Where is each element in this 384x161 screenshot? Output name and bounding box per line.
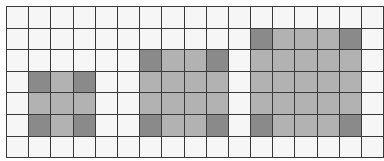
square-5x5-cell — [295, 93, 317, 115]
square-5x5-cell — [340, 93, 362, 115]
grid-cell — [96, 50, 118, 72]
grid-cell — [162, 29, 184, 51]
grid-cell — [273, 137, 295, 159]
grid-cell — [362, 7, 384, 29]
grid-cell — [362, 72, 384, 94]
square-3x3-corner-cell — [29, 72, 51, 94]
square-5x5-cell — [295, 29, 317, 51]
grid-cell — [118, 137, 140, 159]
square-5x5-cell — [318, 115, 340, 137]
grid-cell — [51, 29, 73, 51]
grid-cell — [96, 115, 118, 137]
grid-cell — [185, 7, 207, 29]
grid-cell — [185, 29, 207, 51]
square-5x5-corner-cell — [340, 115, 362, 137]
square-4x4-corner-cell — [207, 50, 229, 72]
square-5x5-corner-cell — [251, 29, 273, 51]
grid-cell — [229, 115, 251, 137]
square-4x4-cell — [185, 93, 207, 115]
grid-cell — [295, 7, 317, 29]
grid-cell — [295, 137, 317, 159]
square-5x5-cell — [295, 50, 317, 72]
grid-cell — [207, 7, 229, 29]
grid-cell — [7, 137, 29, 159]
grid-cell — [362, 29, 384, 51]
square-4x4-cell — [162, 72, 184, 94]
square-4x4-cell — [140, 72, 162, 94]
grid-cell — [229, 72, 251, 94]
square-3x3-cell — [51, 115, 73, 137]
grid-cell — [118, 115, 140, 137]
grid-cell — [229, 7, 251, 29]
grid-cell — [7, 7, 29, 29]
grid-cell — [207, 137, 229, 159]
grid-cell — [74, 29, 96, 51]
square-4x4-cell — [185, 115, 207, 137]
grid-cell — [273, 7, 295, 29]
square-5x5-corner-cell — [251, 115, 273, 137]
grid-cell — [185, 137, 207, 159]
square-5x5-cell — [251, 50, 273, 72]
square-5x5-cell — [318, 29, 340, 51]
grid-cell — [362, 50, 384, 72]
grid-cell — [51, 7, 73, 29]
square-4x4-cell — [162, 93, 184, 115]
grid-cell — [229, 93, 251, 115]
grid-cell — [7, 50, 29, 72]
grid-cell — [96, 29, 118, 51]
grid-cell — [96, 72, 118, 94]
grid-cell — [118, 72, 140, 94]
grid-cell — [29, 137, 51, 159]
grid-cell — [7, 72, 29, 94]
pattern-grid — [6, 6, 384, 158]
square-5x5-cell — [251, 93, 273, 115]
grid-cell — [7, 115, 29, 137]
grid-cell — [96, 7, 118, 29]
grid-cell — [96, 137, 118, 159]
grid-cell — [118, 50, 140, 72]
square-3x3-corner-cell — [29, 115, 51, 137]
square-4x4-corner-cell — [207, 115, 229, 137]
grid-cell — [251, 7, 273, 29]
grid-cell — [340, 7, 362, 29]
grid-cell — [140, 7, 162, 29]
grid-cell — [7, 29, 29, 51]
square-5x5-cell — [273, 29, 295, 51]
grid-cell — [74, 50, 96, 72]
square-4x4-cell — [207, 93, 229, 115]
grid-cell — [318, 137, 340, 159]
square-4x4-cell — [162, 50, 184, 72]
square-5x5-cell — [318, 93, 340, 115]
square-3x3-cell — [74, 93, 96, 115]
grid-cell — [229, 137, 251, 159]
square-3x3-corner-cell — [74, 72, 96, 94]
square-5x5-cell — [340, 50, 362, 72]
grid-cell — [362, 93, 384, 115]
grid-cell — [229, 29, 251, 51]
square-5x5-corner-cell — [340, 29, 362, 51]
square-5x5-cell — [273, 115, 295, 137]
square-5x5-cell — [318, 50, 340, 72]
grid-cell — [140, 137, 162, 159]
square-5x5-cell — [273, 72, 295, 94]
square-5x5-cell — [340, 72, 362, 94]
square-4x4-corner-cell — [140, 50, 162, 72]
grid-cell — [340, 137, 362, 159]
square-3x3-cell — [51, 72, 73, 94]
grid-cell — [51, 137, 73, 159]
grid-cell — [7, 93, 29, 115]
square-3x3-cell — [29, 93, 51, 115]
grid-cell — [140, 29, 162, 51]
grid-cell — [118, 7, 140, 29]
square-5x5-cell — [295, 72, 317, 94]
grid-cell — [318, 7, 340, 29]
grid-cell — [51, 50, 73, 72]
grid-cell — [251, 137, 273, 159]
square-5x5-cell — [273, 93, 295, 115]
grid-cell — [74, 137, 96, 159]
square-5x5-cell — [251, 72, 273, 94]
square-5x5-cell — [295, 115, 317, 137]
grid-cell — [162, 7, 184, 29]
square-3x3-corner-cell — [74, 115, 96, 137]
grid-cell — [362, 137, 384, 159]
